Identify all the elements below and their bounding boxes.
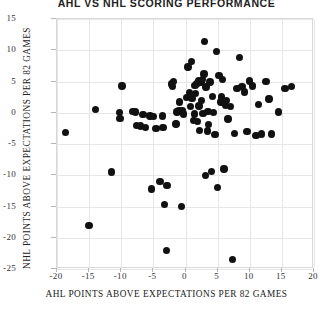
data-point (208, 168, 215, 175)
x-tick-mark (56, 268, 57, 272)
data-point (262, 78, 269, 85)
data-point (201, 38, 208, 45)
data-point (249, 82, 256, 89)
data-point (159, 112, 166, 119)
y-tick-label: -25 (0, 263, 16, 273)
gridline-horizontal (57, 82, 312, 83)
gridline-horizontal (57, 238, 312, 239)
y-tick-mark (51, 49, 56, 50)
data-point (258, 130, 265, 137)
gridline-vertical (218, 19, 219, 267)
data-point (206, 78, 213, 85)
y-tick-mark (51, 143, 56, 144)
x-tick-mark (281, 268, 282, 272)
data-point (241, 88, 248, 95)
data-point (178, 203, 185, 210)
data-point (255, 101, 262, 108)
data-point (148, 185, 155, 192)
y-tick-mark (51, 112, 56, 113)
data-point (211, 131, 218, 138)
scatter-chart: AHL VS NHL SCORING PERFORMANCE 151050-5-… (0, 0, 333, 316)
y-tick-mark (51, 81, 56, 82)
data-point (205, 121, 212, 128)
data-point (163, 182, 170, 189)
data-point (200, 70, 207, 77)
data-point (236, 54, 243, 61)
data-point (187, 103, 194, 110)
gridline-vertical (153, 19, 154, 267)
gridline-vertical (186, 19, 187, 267)
data-point (220, 165, 227, 172)
y-tick-label: 15 (0, 13, 16, 23)
y-tick-mark (51, 206, 56, 207)
x-tick-mark (249, 268, 250, 272)
gridline-vertical (57, 19, 58, 267)
data-point (229, 256, 236, 263)
data-point (118, 82, 125, 89)
y-tick-label: -10 (0, 169, 16, 179)
gridline-vertical (121, 19, 122, 267)
data-point (213, 48, 220, 55)
data-point (209, 93, 216, 100)
y-tick-mark (51, 18, 56, 19)
data-point (192, 90, 199, 97)
data-point (227, 103, 234, 110)
x-tick-mark (185, 268, 186, 272)
data-point (214, 184, 221, 191)
data-point (132, 108, 139, 115)
data-point (150, 113, 157, 120)
plot-area (56, 18, 313, 268)
y-tick-label: -5 (0, 138, 16, 148)
data-point (288, 83, 295, 90)
y-axis-title: NHL POINTS ABOVE EXPECTATIONS PER 82 GAM… (22, 23, 32, 273)
data-point (159, 124, 166, 131)
data-point (142, 124, 149, 131)
y-tick-label: -20 (0, 232, 16, 242)
x-tick-mark (152, 268, 153, 272)
data-point (198, 97, 205, 104)
data-point (224, 115, 231, 122)
chart-title: AHL VS NHL SCORING PERFORMANCE (0, 0, 333, 9)
data-point (204, 127, 211, 134)
x-tick-mark (217, 268, 218, 272)
data-point (243, 128, 250, 135)
x-tick-label: 20 (293, 271, 333, 281)
data-point (163, 247, 170, 254)
data-point (170, 78, 177, 85)
x-axis-title: AHL POINTS ABOVE EXPECTATIONS PER 82 GAM… (0, 289, 333, 299)
data-point (210, 109, 217, 116)
data-point (188, 58, 195, 65)
data-point (265, 95, 272, 102)
y-tick-mark (51, 237, 56, 238)
data-point (196, 127, 203, 134)
gridline-vertical (250, 19, 251, 267)
data-point (231, 130, 238, 137)
data-point (180, 110, 187, 117)
data-point (191, 110, 198, 117)
data-point (108, 168, 115, 175)
y-tick-label: 10 (0, 44, 16, 54)
y-tick-label: 0 (0, 107, 16, 117)
gridline-horizontal (57, 50, 312, 51)
gridline-vertical (282, 19, 283, 267)
x-tick-mark (88, 268, 89, 272)
y-tick-mark (51, 174, 56, 175)
data-point (85, 222, 92, 229)
data-point (172, 120, 179, 127)
y-tick-label: -15 (0, 201, 16, 211)
data-point (176, 98, 183, 105)
data-point (62, 129, 69, 136)
x-tick-mark (313, 268, 314, 272)
x-tick-mark (120, 268, 121, 272)
data-point (116, 115, 123, 122)
gridline-vertical (89, 19, 90, 267)
gridline-horizontal (57, 19, 312, 20)
gridline-horizontal (57, 144, 312, 145)
data-point (268, 130, 275, 137)
gridline-horizontal (57, 175, 312, 176)
gridline-vertical (314, 19, 315, 267)
y-tick-label: 5 (0, 76, 16, 86)
data-point (194, 118, 201, 125)
